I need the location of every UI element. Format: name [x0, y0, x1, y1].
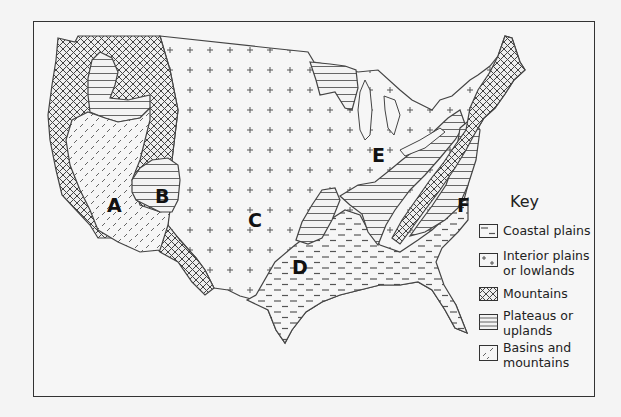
- region-label-e: E: [372, 146, 385, 165]
- key-item-interior-plains: Interior plains or lowlands: [479, 248, 603, 278]
- region-label-b: B: [155, 187, 169, 206]
- key-label: Mountains: [503, 286, 603, 301]
- key-item-plateaus: Plateaus or uplands: [479, 308, 603, 338]
- key-item-basins: Basins and mountains: [479, 340, 603, 370]
- region-label-a: A: [107, 196, 122, 215]
- mountains-swatch-icon: [479, 287, 498, 301]
- key-title: Key: [510, 192, 539, 211]
- region-label-d: D: [292, 258, 308, 277]
- coastal-plains-swatch-icon: [479, 224, 498, 238]
- key-label: Plateaus or uplands: [503, 308, 603, 338]
- key-item-mountains: Mountains: [479, 287, 603, 301]
- region-label-c: C: [248, 211, 262, 230]
- interior-plains-swatch-icon: [479, 253, 498, 267]
- basins-swatch-icon: [479, 345, 498, 361]
- region-label-f: F: [457, 196, 470, 215]
- key-label: Interior plains or lowlands: [503, 248, 603, 278]
- key-item-coastal-plains: Coastal plains: [479, 224, 603, 238]
- key-label: Coastal plains: [503, 223, 603, 238]
- key-label: Basins and mountains: [503, 340, 603, 370]
- plateaus-swatch-icon: [479, 314, 498, 330]
